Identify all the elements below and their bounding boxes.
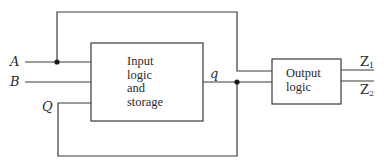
circuit-diagram (0, 0, 384, 166)
input-logic-line-4: storage (127, 96, 163, 110)
label-b: B (10, 75, 20, 88)
label-z2: Z2 (360, 83, 374, 100)
z1-subscript: 1 (369, 61, 374, 70)
z2-main: Z (360, 82, 369, 97)
output-logic-label: Output logic (286, 67, 321, 94)
input-logic-label: Input logic and storage (127, 55, 163, 109)
input-logic-line-1: Input (127, 55, 163, 69)
z2-subscript: 2 (369, 89, 374, 98)
junction-dot-q (234, 79, 239, 84)
input-logic-line-3: and (127, 82, 163, 96)
junction-dot-a (54, 59, 59, 64)
label-z1: Z1 (360, 55, 374, 72)
label-a: A (10, 55, 19, 68)
output-logic-line-2: logic (286, 81, 321, 95)
label-q-feedback: Q (42, 100, 53, 113)
label-q-signal: q (210, 67, 218, 80)
output-logic-line-1: Output (286, 67, 321, 81)
z1-main: Z (360, 54, 369, 69)
input-logic-line-2: logic (127, 69, 163, 83)
